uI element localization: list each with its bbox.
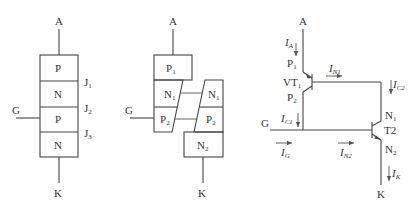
label-vt1: VT1 bbox=[283, 76, 302, 90]
label-p1: P1 bbox=[287, 57, 297, 71]
label-gate: G bbox=[12, 104, 20, 116]
label-anode: A bbox=[55, 15, 63, 27]
region-right-n1: N1 bbox=[208, 88, 220, 102]
region-p1: P1 bbox=[166, 62, 176, 76]
current-ia: IA bbox=[284, 36, 294, 50]
label-n1: N1 bbox=[385, 109, 397, 123]
vt1-collector bbox=[303, 86, 312, 92]
label-gate: G bbox=[261, 117, 269, 129]
current-ig: IG bbox=[280, 146, 290, 160]
label-p2: P2 bbox=[287, 91, 297, 105]
junction-j2: J2 bbox=[84, 102, 92, 116]
pnpn-structure: A K G P N P N J1 J2 J3 bbox=[12, 15, 92, 199]
current-ik: IK bbox=[391, 167, 401, 181]
label-cathode: K bbox=[377, 188, 385, 200]
layer-p1: P bbox=[55, 62, 61, 74]
junction-j3: J3 bbox=[84, 127, 92, 141]
label-t2: T2 bbox=[384, 124, 396, 136]
label-cathode: K bbox=[198, 187, 206, 199]
label-anode: A bbox=[169, 15, 177, 27]
layer-n1: N bbox=[54, 88, 62, 100]
layer-p2: P bbox=[55, 113, 61, 125]
equivalent-circuit: A K G VT1 T2 P1 P2 N1 N2 IA IN1 IC2 IC1 … bbox=[261, 15, 405, 200]
region-left-p2: P2 bbox=[160, 113, 170, 127]
region-n2: N2 bbox=[197, 139, 209, 153]
layer-n2: N bbox=[54, 139, 62, 151]
t2-collector bbox=[372, 121, 381, 126]
label-gate: G bbox=[125, 104, 133, 116]
label-n2: N2 bbox=[385, 143, 397, 157]
label-anode: A bbox=[299, 15, 307, 27]
region-left-n1: N1 bbox=[164, 88, 176, 102]
split-structure: A K G P1 N1 P2 N1 P2 N2 bbox=[125, 15, 223, 199]
current-ic1: IC1 bbox=[280, 112, 293, 126]
current-in2: IN2 bbox=[339, 146, 352, 160]
label-cathode: K bbox=[54, 187, 62, 199]
region-right-p2: P2 bbox=[206, 113, 216, 127]
current-in1: IN1 bbox=[328, 62, 341, 76]
thyristor-diagrams: A K G P N P N J1 J2 J3 A K G P1 N1 P2 N1… bbox=[0, 0, 415, 206]
junction-j1: J1 bbox=[84, 76, 92, 90]
current-ic2: IC2 bbox=[392, 78, 405, 92]
